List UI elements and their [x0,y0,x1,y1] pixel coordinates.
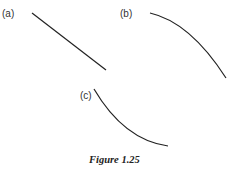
panel-a-line [32,13,106,70]
panel-c-curve [94,89,168,146]
panel-b-curve [150,13,226,78]
figure-curves [0,0,230,174]
figure-caption: Figure 1.25 [89,155,140,166]
